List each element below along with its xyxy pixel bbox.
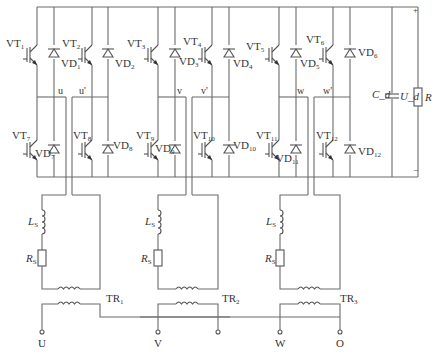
resistor-icon xyxy=(38,250,46,266)
label-tr1: TR1 xyxy=(106,293,124,306)
label-vd8: VD8 xyxy=(113,140,132,153)
label-node-v: v xyxy=(177,86,182,96)
label-vt12: VT12 xyxy=(316,130,338,143)
label-ls-3: LS xyxy=(266,216,276,229)
label-dc-voltage: U_d xyxy=(400,91,419,102)
label-node-w: w xyxy=(297,86,304,96)
label-rs-1: RS xyxy=(26,253,37,266)
terminal-u: U xyxy=(38,337,46,349)
label-vt3: VT3 xyxy=(127,38,145,51)
inductor-icon xyxy=(280,210,283,234)
label-capacitor: C_d xyxy=(372,89,390,100)
label-vt9: VT9 xyxy=(136,130,154,143)
label-vd9: VD9 xyxy=(155,143,174,156)
output-terminals xyxy=(40,330,342,334)
transformer-primary-icon xyxy=(58,287,80,289)
label-vt6: VT6 xyxy=(306,34,324,47)
label-vt2: VT2 xyxy=(62,38,80,51)
label-node-u-prime: u' xyxy=(79,86,86,96)
label-vd11: VD11 xyxy=(276,153,299,166)
label-tr3: TR3 xyxy=(340,293,358,306)
label-vd10: VD10 xyxy=(233,140,256,153)
label-tr2: TR2 xyxy=(222,293,240,306)
label-vd4: VD4 xyxy=(233,58,252,71)
label-vt1: VT1 xyxy=(6,38,24,51)
phase-branch-3 xyxy=(276,195,340,330)
label-node-v-prime: v' xyxy=(201,86,208,96)
terminal-o: O xyxy=(336,337,344,349)
label-ls-2: LS xyxy=(145,216,155,229)
inductor-icon xyxy=(42,210,45,234)
label-node-w-prime: w' xyxy=(323,86,332,96)
label-vt10: VT10 xyxy=(193,130,215,143)
transformer-primary-icon xyxy=(176,287,198,289)
label-vd6: VD6 xyxy=(358,47,377,60)
resistor-icon xyxy=(154,250,162,266)
transformer-primary-icon xyxy=(298,287,320,289)
phase-branch-1 xyxy=(38,195,230,330)
transformer-secondary-icon xyxy=(298,302,320,304)
label-ls-1: LS xyxy=(28,216,38,229)
label-vd12: VD12 xyxy=(358,146,381,159)
resistor-icon xyxy=(276,250,284,266)
label-vt5: VT5 xyxy=(246,41,264,54)
label-vt11: VT11 xyxy=(256,130,277,143)
label-rs-2: RS xyxy=(141,253,152,266)
transformer-secondary-icon xyxy=(176,302,198,304)
inductor-icon xyxy=(158,210,161,234)
terminal-v: V xyxy=(154,337,162,349)
label-vt7: VT7 xyxy=(12,130,30,143)
label-vd7: VD7 xyxy=(35,148,54,161)
label-positive: + xyxy=(413,6,418,15)
bridge-phase-u xyxy=(37,7,108,195)
label-vt4: VT4 xyxy=(183,36,201,49)
label-vd2: VD2 xyxy=(115,58,134,71)
terminal-w: W xyxy=(275,337,285,349)
label-vd1: VD1 xyxy=(61,58,80,71)
label-negative: − xyxy=(413,166,418,175)
label-load-resistor: R xyxy=(425,92,432,103)
transformer-secondary-icon xyxy=(58,302,80,304)
label-node-u: u xyxy=(58,86,63,96)
label-vd5: VD5 xyxy=(300,58,319,71)
label-vd3: VD3 xyxy=(179,56,198,69)
label-vt8: VT8 xyxy=(73,130,91,143)
label-rs-3: RS xyxy=(265,253,276,266)
